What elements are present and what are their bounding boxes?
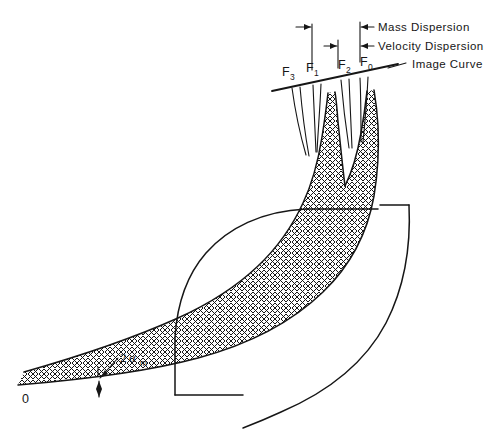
focal-point-base-F3: F [282, 65, 290, 79]
image-curve-label: Image Curve [412, 58, 483, 70]
focal-point-sub-F2: 2 [346, 65, 351, 75]
velocity-dispersion-label: Velocity Dispersion [378, 40, 484, 52]
focal-point-sub-F3: 3 [290, 72, 295, 82]
focal-point-base-F1: F [306, 61, 314, 75]
mass-dispersion-label: Mass Dispersion [378, 21, 470, 33]
focal-point-base-F0: F [360, 55, 368, 69]
figure-root: Mass Dispersion Velocity Dispersion Imag… [0, 0, 497, 447]
origin-label: 0 [22, 392, 29, 406]
half-angle-symbol: α [129, 350, 136, 365]
focal-point-label-F1: F 1 [306, 61, 319, 78]
focal-point-base-F2: F [338, 58, 346, 72]
half-angle-prefix: 2 [120, 350, 127, 365]
focal-point-label-F0: F 0 [360, 55, 373, 72]
focal-point-sub-F1: 1 [314, 68, 319, 78]
ion-optics-diagram: Mass Dispersion Velocity Dispersion Imag… [0, 0, 497, 447]
focal-point-label-F3: F 3 [282, 65, 295, 82]
half-angle-subscript: m [140, 358, 147, 368]
focal-point-sub-F0: 0 [368, 62, 373, 72]
focal-point-label-F2: F 2 [338, 58, 351, 75]
